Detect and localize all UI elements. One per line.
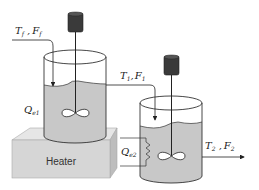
feed-label: Tf ,Ff: [15, 25, 43, 38]
stream-1-label: T1,F1: [120, 70, 145, 82]
heater-label: Heater: [46, 156, 77, 167]
stream-2-label: T2 ,F2: [205, 140, 235, 152]
stream-1-arrow: [106, 85, 155, 120]
feed-arrow: [12, 40, 53, 86]
heat-input-2-label: Qe2: [121, 146, 137, 158]
heat-input-1-label: Qe1: [24, 104, 40, 116]
motor-1-icon: [68, 12, 83, 32]
process-diagram: Heater Tf ,Ff Qe1 T1,F1: [0, 0, 259, 190]
motor-2-icon: [164, 55, 179, 75]
tank-2: [140, 55, 202, 183]
